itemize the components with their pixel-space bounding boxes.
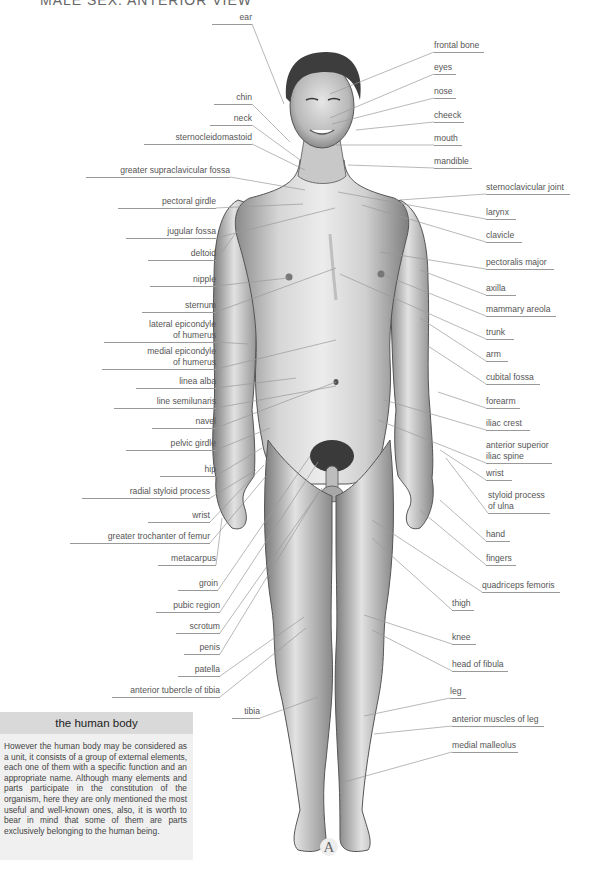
- label-sternoclavicular-joint: sternoclavicular joint: [486, 182, 570, 195]
- label-medial-malleolus: medial malleolus: [452, 740, 518, 753]
- label-clavicle: clavicle: [486, 230, 522, 243]
- label-trunk: trunk: [486, 327, 514, 340]
- leader-line-wrist-right: [440, 450, 486, 480]
- label-greater-trochanter-of-femur: greater trochanter of femur: [70, 531, 210, 544]
- label-axilla: axilla: [486, 283, 516, 296]
- label-wrist-right: wrist: [486, 468, 512, 481]
- label-pectoral-girdle: pectoral girdle: [118, 196, 216, 209]
- label-larynx: larynx: [486, 207, 516, 220]
- label-pectoralis-major: pectoralis major: [486, 257, 554, 270]
- leader-line-head-of-fibula: [372, 630, 452, 671]
- leader-line-fingers: [420, 510, 486, 565]
- leader-line-trunk: [340, 274, 486, 339]
- label-jugular-fossa: jugular fossa: [126, 226, 216, 239]
- label-pubic-region: pubic region: [156, 600, 220, 613]
- leader-line-jugular-fossa: [216, 208, 335, 238]
- leader-line-sternocleidomastoid: [252, 144, 305, 170]
- label-frontal-bone: frontal bone: [434, 40, 484, 53]
- label-neck: neck: [210, 113, 252, 126]
- label-line-semilunaris: line semilunaris: [114, 396, 216, 409]
- leader-line-frontal-bone: [330, 52, 434, 94]
- leader-line-tibia: [260, 697, 318, 718]
- leader-line-axilla: [420, 270, 486, 295]
- leader-line-hip: [216, 448, 262, 476]
- label-metacarpus: metacarpus: [158, 553, 216, 566]
- label-patella: patella: [178, 664, 220, 677]
- info-box-title: the human body: [0, 712, 193, 734]
- label-penis: penis: [184, 642, 220, 655]
- label-sternum: sternum: [142, 300, 216, 313]
- label-ear: ear: [212, 12, 252, 25]
- label-anterior-tubercle-of-tibia: anterior tubercle of tibia: [112, 685, 220, 698]
- leader-line-cubital-fossa: [428, 346, 486, 384]
- label-knee: knee: [452, 632, 476, 645]
- label-scrotum: scrotum: [176, 621, 220, 634]
- label-cubital-fossa: cubital fossa: [486, 372, 540, 385]
- label-chin: chin: [214, 92, 252, 105]
- leader-line-metacarpus: [216, 518, 222, 565]
- label-anterior-superior-iliac-spine: anterior superior iliac spine: [486, 440, 552, 464]
- leader-line-linea-alba: [216, 378, 296, 388]
- label-mouth: mouth: [434, 133, 462, 146]
- label-sternocleidomastoid: sternocleidomastoid: [144, 132, 252, 145]
- label-cheeck: cheeck: [434, 110, 464, 123]
- leader-line-styloid-process-of-ulna: [446, 458, 488, 513]
- label-head-of-fibula: head of fibula: [452, 659, 508, 672]
- label-styloid-process-of-ulna: styloid process of ulna: [488, 490, 550, 514]
- leader-line-anterior-tubercle-of-tibia: [220, 628, 306, 697]
- label-linea-alba: linea alba: [136, 376, 216, 389]
- label-greater-supraclavicular-fossa: greater supraclavicular fossa: [86, 165, 230, 178]
- leader-line-leg: [364, 698, 450, 716]
- leader-line-anterior-muscles-of-leg: [374, 726, 452, 734]
- leader-line-pectoralis-major: [380, 252, 486, 269]
- leader-line-patella: [220, 617, 304, 676]
- label-nipple: nipple: [150, 274, 216, 287]
- leader-line-lateral-epicondyle-of-humerus: [216, 342, 248, 344]
- label-iliac-crest: iliac crest: [486, 418, 530, 431]
- leader-line-thigh: [372, 538, 452, 610]
- leader-line-sternum: [216, 268, 336, 312]
- label-leg: leg: [450, 686, 466, 699]
- leader-line-chin: [252, 104, 290, 142]
- leader-line-deltoid: [216, 230, 238, 260]
- leader-line-mandible: [348, 165, 434, 168]
- leader-line-ear: [252, 24, 284, 104]
- leader-line-anterior-superior-iliac-spine: [378, 420, 486, 463]
- plate-letter-badge: A: [320, 838, 338, 856]
- leader-line-pelvic-girdle: [216, 428, 270, 450]
- label-eyes: eyes: [434, 62, 456, 75]
- label-nose: nose: [434, 86, 456, 99]
- label-arm: arm: [486, 349, 508, 362]
- leader-line-pubic-region: [220, 462, 318, 612]
- leader-line-quadriceps-femoris: [372, 520, 482, 592]
- leader-line-neck: [252, 125, 300, 160]
- label-tibia: tibia: [232, 706, 260, 719]
- label-lateral-epicondyle-of-humerus: lateral epicondyle of humerus: [104, 319, 216, 343]
- leader-line-larynx: [338, 192, 486, 219]
- label-anterior-muscles-of-leg: anterior muscles of leg: [452, 714, 544, 727]
- leader-line-greater-trochanter-of-femur: [210, 476, 266, 543]
- leader-line-medial-malleolus: [344, 752, 452, 782]
- leader-line-radial-styloid-process: [210, 470, 256, 498]
- leader-line-mammary-areola: [384, 275, 486, 316]
- label-radial-styloid-process: radial styloid process: [82, 486, 210, 499]
- label-thigh: thigh: [452, 598, 474, 611]
- label-hip: hip: [160, 464, 216, 477]
- label-groin: groin: [178, 578, 218, 591]
- label-forearm: forearm: [486, 396, 520, 409]
- label-hand: hand: [486, 529, 510, 542]
- leader-line-medial-epicondyle-of-humerus: [216, 340, 336, 369]
- leader-line-wrist-left: [210, 465, 264, 522]
- label-mandible: mandible: [434, 156, 472, 169]
- leader-line-scrotum: [220, 488, 322, 633]
- leader-line-greater-supraclavicular-fossa: [230, 177, 305, 190]
- label-navel: navel: [152, 416, 216, 429]
- label-deltoid: deltoid: [148, 248, 216, 261]
- leader-line-hand: [440, 500, 486, 541]
- label-quadriceps-femoris: quadriceps femoris: [482, 580, 560, 593]
- label-fingers: fingers: [486, 553, 516, 566]
- leader-line-pectoral-girdle: [216, 204, 303, 208]
- label-pelvic-girdle: pelvic girdle: [126, 438, 216, 451]
- leader-line-sternoclavicular-joint: [400, 194, 486, 200]
- label-wrist-left: wrist: [148, 510, 210, 523]
